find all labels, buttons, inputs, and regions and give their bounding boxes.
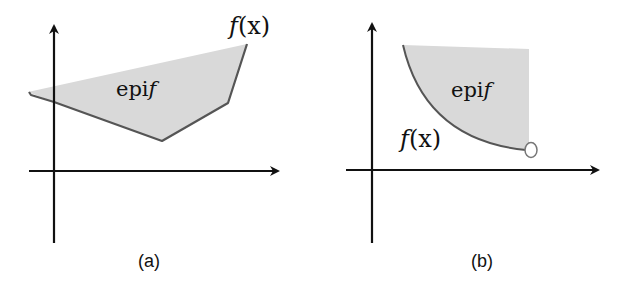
- figure-b: epif f(x) (b): [346, 24, 598, 271]
- epigraph-label-a: epif: [116, 77, 160, 101]
- epigraph-label-b: epif: [451, 78, 495, 102]
- function-label-a: f(x): [227, 12, 270, 40]
- figure-a: epif f(x) (a): [28, 12, 278, 271]
- caption-b: (b): [471, 251, 493, 271]
- epigraph-diagram: epif f(x) (a) epif f(x) (b): [0, 0, 617, 296]
- open-endpoint-circle: [525, 143, 537, 158]
- caption-a: (a): [138, 251, 160, 271]
- function-label-b: f(x): [398, 125, 441, 153]
